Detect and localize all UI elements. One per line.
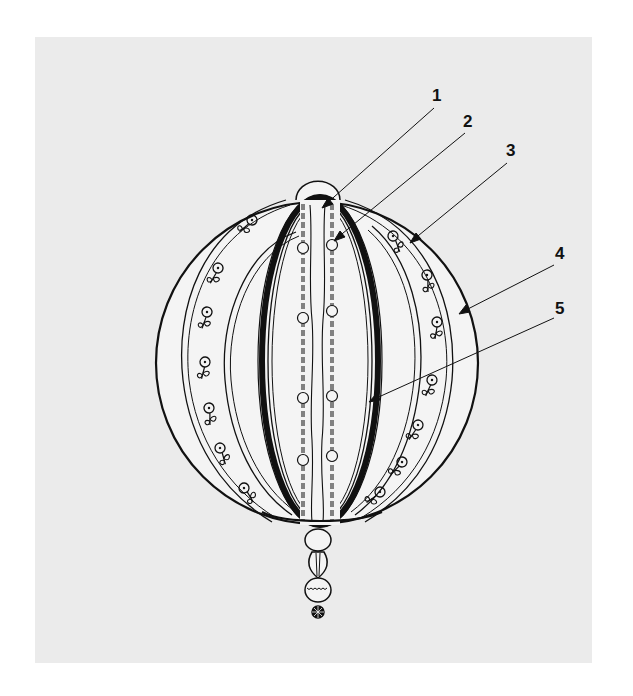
- callout-label-1: 1: [432, 86, 441, 105]
- collar-bead: [305, 529, 331, 551]
- callout-label-4: 4: [555, 244, 565, 263]
- leader-1: [325, 108, 434, 205]
- callout-label-2: 2: [463, 112, 472, 131]
- leader-4: [462, 265, 554, 312]
- hanging-drop: [305, 529, 331, 618]
- ornament-diagram: 1 2 3 4 5: [0, 0, 633, 696]
- leader-2: [337, 133, 465, 238]
- callout-label-3: 3: [506, 141, 515, 160]
- leader-3: [413, 163, 507, 240]
- callout-label-5: 5: [555, 299, 564, 318]
- ornament-bulb: [305, 578, 331, 602]
